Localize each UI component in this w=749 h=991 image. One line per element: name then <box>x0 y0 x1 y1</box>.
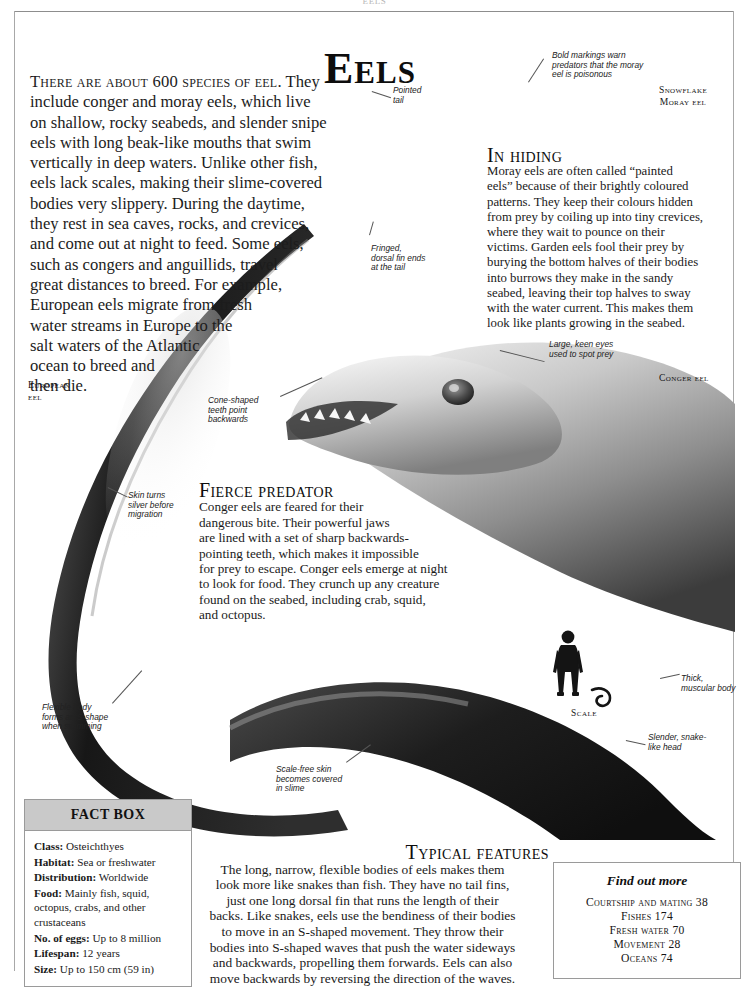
fact-key: Distribution: <box>34 871 96 883</box>
annotation-bold-markings: Bold markings warn predators that the mo… <box>552 51 643 80</box>
fact-value: Worldwide <box>99 871 148 883</box>
in-hiding-heading: In hiding <box>487 148 737 163</box>
typical-line-7: move backwards by reversing the directio… <box>170 971 555 987</box>
label-european-eel: European eel <box>28 379 70 402</box>
intro-paragraph: There are about 600 species of eel. They… <box>30 72 330 397</box>
fact-row: Size: Up to 150 cm (59 in) <box>34 962 182 977</box>
typical-line-1: look more like snakes than fish. They ha… <box>170 877 555 893</box>
fierce-line-1: dangerous bite. Their powerful jaws <box>199 515 499 530</box>
page-frame-left <box>14 11 15 971</box>
annotation-flexible-body: Flexible body forms an S-shape when swim… <box>42 703 108 732</box>
fierce-line-5: to look for food. They crunch up any cre… <box>199 576 499 591</box>
fact-box-list: Class: Osteichthyes Habitat: Sea or fres… <box>25 831 191 986</box>
fierce-line-6: found on the seabed, including crab, squ… <box>199 592 499 607</box>
intro-line-10: great distances to breed. For example, <box>30 275 330 295</box>
fact-key: Class: <box>34 840 63 852</box>
annotation-large-keen-eyes: Large, keen eyes used to spot prey <box>549 340 613 359</box>
fact-value: 12 years <box>82 947 120 959</box>
fact-row: Distribution: Worldwide <box>34 870 182 885</box>
find-out-more-item[interactable]: Oceans 74 <box>558 952 736 966</box>
in-hiding-line-0: Moray eels are often called “painted <box>487 164 737 179</box>
fact-key: Lifespan: <box>34 947 79 959</box>
in-hiding-line-1: eels” because of their brightly coloured <box>487 179 737 194</box>
intro-line-7: they rest in sea caves, rocks, and crevi… <box>30 214 330 234</box>
fact-value: Osteichthyes <box>66 840 124 852</box>
annotation-cone-shaped-teeth: Cone-shaped teeth point backwards <box>208 396 258 425</box>
label-conger-eel: Conger eel <box>659 372 709 384</box>
intro-line-2: on shallow, rocky seabeds, and slender s… <box>30 113 330 133</box>
encyclopedia-page: EELS Eels <box>0 0 749 991</box>
find-out-more-item[interactable]: Fishes 174 <box>558 910 736 924</box>
typical-line-6: and backwards, propelling them forwards.… <box>170 955 555 971</box>
typical-line-5: bodies into S-shaped waves that push the… <box>170 940 555 956</box>
in-hiding-section: In hiding Moray eels are often called “p… <box>487 148 737 331</box>
fact-row: Habitat: Sea or freshwater <box>34 855 182 870</box>
find-out-more-item[interactable]: Movement 28 <box>558 938 736 952</box>
annotation-skin-turns-silver: Skin turns silver before migration <box>128 491 174 520</box>
intro-line-11: European eels migrate from fresh <box>30 295 330 315</box>
fact-row: Class: Osteichthyes <box>34 839 182 854</box>
label-snowflake-moray-eel: Snowflake Moray eel <box>628 84 738 107</box>
fierce-line-4: for prey to escape. Conger eels emerge a… <box>199 561 499 576</box>
fierce-line-0: Conger eels are feared for their <box>199 499 499 514</box>
fierce-predator-heading: Fierce predator <box>199 483 499 498</box>
intro-line-1: include conger and moray eels, which liv… <box>30 92 330 112</box>
fact-value: Sea or freshwater <box>77 856 155 868</box>
typical-line-3: backs. Like snakes, eels use the bendine… <box>170 908 555 924</box>
intro-line-0: They <box>282 72 320 91</box>
typical-features-heading: Typical features <box>170 845 555 861</box>
fact-key: Size: <box>34 963 57 975</box>
in-hiding-line-4: where they wait to pounce on their <box>487 225 737 240</box>
intro-line-12: water streams in Europe to the <box>30 316 330 336</box>
find-out-more-item[interactable]: Courtship and mating 38 <box>558 896 736 910</box>
annotation-slender-head: Slender, snake- like head <box>648 733 706 752</box>
in-hiding-line-9: with the water current. This makes them <box>487 301 737 316</box>
find-out-more-item[interactable]: Fresh water 70 <box>558 924 736 938</box>
intro-lead: There are about 600 species of eel. <box>30 72 282 91</box>
intro-line-5: eels lack scales, making their slime-cov… <box>30 173 330 193</box>
fact-box: FACT BOX Class: Osteichthyes Habitat: Se… <box>24 799 192 987</box>
fact-row: Lifespan: 12 years <box>34 946 182 961</box>
intro-line-9: such as congers and anguillids, travel <box>30 255 330 275</box>
fact-row: Food: Mainly fish, squid, octopus, crabs… <box>34 886 182 930</box>
fact-box-title: FACT BOX <box>25 800 191 831</box>
in-hiding-line-2: patterns. They keep their colours hidden <box>487 195 737 210</box>
fact-key: No. of eggs: <box>34 932 90 944</box>
intro-line-8: and come out at night to feed. Some eels… <box>30 234 330 254</box>
find-out-more-title: Find out more <box>558 873 736 889</box>
header-rule <box>14 11 734 12</box>
intro-line-14: ocean to breed and <box>30 356 330 376</box>
fierce-predator-section: Fierce predator Conger eels are feared f… <box>199 483 499 623</box>
in-hiding-line-7: into burrows they make in the sandy <box>487 271 737 286</box>
in-hiding-line-5: victims. Garden eels fool their prey by <box>487 240 737 255</box>
typical-line-4: to move in an S-shaped movement. They th… <box>170 924 555 940</box>
annotation-scale-free-skin: Scale-free skin becomes covered in slime <box>276 765 342 794</box>
annotation-pointed-tail: Pointed tail <box>393 86 421 105</box>
intro-line-13: salt waters of the Atlantic <box>30 336 330 356</box>
annotation-thick-muscular-body: Thick, muscular body <box>681 674 735 693</box>
fierce-line-2: are lined with a set of sharp backwards- <box>199 530 499 545</box>
typical-line-0: The long, narrow, flexible bodies of eel… <box>170 862 555 878</box>
typical-line-2: just one long dorsal fin that runs the l… <box>170 893 555 909</box>
fact-key: Habitat: <box>34 856 74 868</box>
fact-value: Up to 150 cm (59 in) <box>60 963 154 975</box>
find-out-more-box: Find out more Courtship and mating 38 Fi… <box>553 862 741 979</box>
running-head: EELS <box>0 0 749 6</box>
annotation-fringed-dorsal-fin: Fringed, dorsal fin ends at the tail <box>371 244 425 273</box>
in-hiding-line-10: look like plants growing in the seabed. <box>487 316 737 331</box>
scale-human-silhouette <box>548 628 620 720</box>
intro-line-4: vertically in deep waters. Unlike other … <box>30 153 330 173</box>
fact-key: Food: <box>34 887 62 899</box>
scale-label: Scale <box>549 708 619 718</box>
fierce-line-7: and octopus. <box>199 607 499 622</box>
fact-row: No. of eggs: Up to 8 million <box>34 931 182 946</box>
typical-features-section: Typical features The long, narrow, flexi… <box>170 845 555 986</box>
intro-line-3: eels with long beak-like mouths that swi… <box>30 133 330 153</box>
intro-line-6: bodies very slippery. During the daytime… <box>30 194 330 214</box>
fact-value: Up to 8 million <box>92 932 161 944</box>
in-hiding-line-3: from prey by coiling up into tiny crevic… <box>487 210 737 225</box>
in-hiding-line-6: burying the bottom halves of their bodie… <box>487 255 737 270</box>
fierce-line-3: pointing teeth, which makes it impossibl… <box>199 546 499 561</box>
in-hiding-line-8: seabed, leaving their top halves to sway <box>487 286 737 301</box>
